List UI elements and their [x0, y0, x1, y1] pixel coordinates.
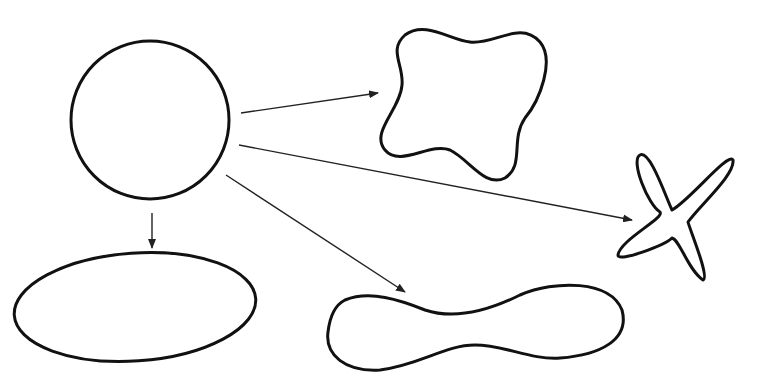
arrow-to-peanut-shape-icon — [226, 175, 405, 292]
diagram-canvas — [0, 0, 758, 391]
source-circle — [71, 41, 229, 199]
ellipse-shape — [11, 245, 260, 370]
four-lobed-square-shape — [381, 29, 546, 180]
peanut-shape — [328, 285, 624, 370]
arrow-to-four-armed-star-icon — [239, 145, 632, 220]
arrows-group — [152, 93, 632, 292]
four-armed-star-shape — [618, 155, 733, 280]
arrow-to-four-lobed-square-icon — [241, 93, 378, 113]
